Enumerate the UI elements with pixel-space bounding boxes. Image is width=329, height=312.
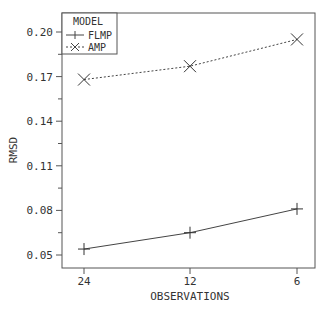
data-point-flmp <box>184 227 196 239</box>
data-series <box>78 33 303 255</box>
data-point-amp <box>78 74 90 86</box>
y-axis: 0.050.080.110.140.170.20 <box>27 26 63 262</box>
x-axis: 24126 <box>77 268 300 288</box>
data-point-flmp <box>291 203 303 215</box>
y-axis-label: RMSD <box>7 137 20 164</box>
y-tick-label: 0.20 <box>27 26 54 39</box>
legend-title: MODEL <box>73 16 103 27</box>
data-point-amp <box>184 60 196 72</box>
x-tick-label: 24 <box>77 275 91 288</box>
y-tick-label: 0.14 <box>27 115 54 128</box>
y-tick-label: 0.05 <box>27 249 54 262</box>
legend-label-flmp: FLMP <box>88 30 112 41</box>
y-tick-label: 0.08 <box>27 204 54 217</box>
y-tick-label: 0.11 <box>27 160 54 173</box>
legend-label-amp: AMP <box>88 42 106 53</box>
line-chart: 0.050.080.110.140.170.20 24126 OBSERVATI… <box>0 0 329 312</box>
x-axis-label: OBSERVATIONS <box>150 290 229 303</box>
legend: MODEL FLMP AMP <box>62 13 117 54</box>
x-tick-label: 6 <box>294 275 301 288</box>
data-point-amp <box>291 33 303 45</box>
y-tick-label: 0.17 <box>27 71 54 84</box>
data-point-flmp <box>78 243 90 255</box>
x-tick-label: 12 <box>183 275 196 288</box>
